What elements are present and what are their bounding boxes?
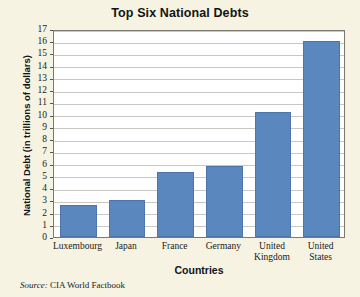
gridline (54, 153, 344, 154)
y-tick-label: 10 (5, 111, 47, 121)
y-tick-mark (50, 67, 53, 68)
y-tick-mark (50, 226, 53, 227)
bar-germany (206, 166, 243, 237)
y-tick-label: 2 (5, 209, 47, 219)
gridline (54, 226, 344, 227)
y-tick-label: 15 (5, 49, 47, 59)
gridline (54, 177, 344, 178)
bar-japan (109, 200, 146, 237)
y-tick-mark (50, 30, 53, 31)
source-value: CIA World Factbook (50, 280, 125, 290)
y-tick-mark (50, 103, 53, 104)
y-tick-mark (50, 189, 53, 190)
gridline (54, 79, 344, 80)
y-tick-label: 5 (5, 172, 47, 182)
gridline (54, 31, 344, 32)
y-tick-label: 11 (5, 98, 47, 108)
y-tick-label: 1 (5, 221, 47, 231)
y-tick-label: 8 (5, 135, 47, 145)
y-tick-mark (50, 116, 53, 117)
x-tick-label: United States (296, 241, 345, 263)
x-tick-label: Japan (102, 241, 151, 252)
x-tick-label: Luxembourg (53, 241, 102, 252)
chart-title: Top Six National Debts (0, 6, 360, 20)
gridline (54, 202, 344, 203)
y-tick-mark (50, 201, 53, 202)
y-tick-label: 13 (5, 74, 47, 84)
y-tick-label: 16 (5, 37, 47, 47)
y-tick-mark (50, 79, 53, 80)
bar-france (157, 172, 194, 237)
x-tick-label: United Kingdom (248, 241, 297, 263)
y-tick-label: 0 (5, 233, 47, 243)
gridline (54, 116, 344, 117)
gridline (54, 104, 344, 105)
y-tick-mark (50, 91, 53, 92)
gridline (54, 55, 344, 56)
y-tick-label: 6 (5, 160, 47, 170)
source-label: Source: (20, 280, 48, 290)
y-tick-mark (50, 140, 53, 141)
y-tick-label: 9 (5, 123, 47, 133)
gridline (54, 43, 344, 44)
y-tick-mark (50, 177, 53, 178)
x-tick-label: France (150, 241, 199, 252)
gridline (54, 214, 344, 215)
y-tick-mark (50, 152, 53, 153)
y-tick-mark (50, 238, 53, 239)
gridline (54, 165, 344, 166)
x-tick-label: Germany (199, 241, 248, 252)
chart-figure: Top Six National Debts National Debt (in… (0, 0, 360, 297)
gridline (54, 92, 344, 93)
gridline (54, 128, 344, 129)
y-tick-label: 14 (5, 62, 47, 72)
gridline (54, 190, 344, 191)
y-tick-label: 12 (5, 86, 47, 96)
y-tick-label: 4 (5, 184, 47, 194)
plot-area (53, 30, 345, 238)
gridline (54, 67, 344, 68)
y-tick-mark (50, 165, 53, 166)
y-tick-mark (50, 128, 53, 129)
gridline (54, 141, 344, 142)
y-tick-label: 7 (5, 147, 47, 157)
x-axis-title: Countries (53, 264, 345, 276)
y-tick-mark (50, 54, 53, 55)
source-note: Source: CIA World Factbook (20, 280, 125, 290)
y-tick-mark (50, 42, 53, 43)
y-tick-mark (50, 214, 53, 215)
y-tick-label: 17 (5, 25, 47, 35)
bar-united-kingdom (255, 112, 292, 237)
bar-united-states (303, 41, 340, 237)
bar-luxembourg (60, 205, 97, 237)
y-tick-label: 3 (5, 196, 47, 206)
